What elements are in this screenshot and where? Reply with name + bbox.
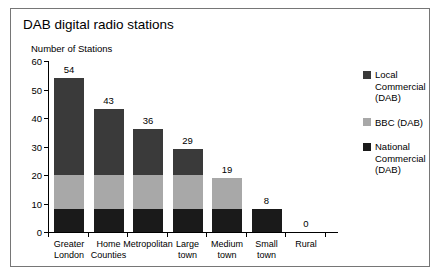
y-tick-label: 30 xyxy=(31,141,42,152)
plot-area: 0102030405060 544336291980 GreaterLondon… xyxy=(48,61,338,233)
bar-small-town[interactable]: 8 xyxy=(252,209,282,232)
category-label-rural: Rural xyxy=(278,239,334,250)
y-tick-label: 50 xyxy=(31,84,42,95)
x-tick-mark xyxy=(127,233,128,237)
y-tick-label: 10 xyxy=(31,198,42,209)
category-label-line: Rural xyxy=(278,239,334,250)
legend-label-line: Local xyxy=(375,69,429,81)
y-axis-label: Number of Stations xyxy=(31,43,112,54)
x-tick-mark xyxy=(246,233,247,237)
bar-segment-local xyxy=(133,129,163,175)
bar-home-counties[interactable]: 43 xyxy=(94,109,124,232)
category-label-line: Counties xyxy=(81,250,137,261)
bar-segment-national xyxy=(252,209,282,232)
x-tick-mark xyxy=(285,233,286,237)
chart-figure: DAB digital radio stations Number of Sta… xyxy=(10,8,430,267)
y-tick-mark xyxy=(44,175,48,176)
y-tick-mark xyxy=(44,204,48,205)
category-label-line: town xyxy=(239,250,295,261)
bar-segment-bbc xyxy=(133,175,163,209)
bar-large-town[interactable]: 29 xyxy=(173,149,203,232)
legend-label-line: (DAB) xyxy=(375,164,429,176)
bar-total-label: 0 xyxy=(303,218,308,229)
legend-item-national[interactable]: NationalCommercial(DAB) xyxy=(363,141,429,176)
legend-label-line: National xyxy=(375,141,429,153)
bar-metropolitan[interactable]: 36 xyxy=(133,129,163,232)
legend-swatch-icon xyxy=(363,118,371,126)
bar-segment-bbc xyxy=(212,178,242,209)
bar-total-label: 29 xyxy=(182,135,193,146)
bar-greater-london[interactable]: 54 xyxy=(54,78,84,232)
bar-segment-local xyxy=(94,109,124,175)
chart-legend: LocalCommercial(DAB)BBC (DAB)NationalCom… xyxy=(363,69,429,189)
y-tick-label: 60 xyxy=(31,56,42,67)
x-tick-mark xyxy=(206,233,207,237)
bar-segment-local xyxy=(54,78,84,175)
y-tick-mark xyxy=(44,90,48,91)
bar-total-label: 19 xyxy=(222,164,233,175)
y-tick-mark xyxy=(44,147,48,148)
bar-segment-national xyxy=(54,209,84,232)
legend-label-line: BBC (DAB) xyxy=(375,117,429,129)
y-tick-mark xyxy=(44,118,48,119)
legend-swatch-icon xyxy=(363,143,371,151)
legend-item-local[interactable]: LocalCommercial(DAB) xyxy=(363,69,429,104)
bar-total-label: 8 xyxy=(264,195,269,206)
bar-total-label: 43 xyxy=(103,95,114,106)
legend-label-line: Commercial xyxy=(375,81,429,93)
y-axis-line xyxy=(48,61,49,233)
bar-medium-town[interactable]: 19 xyxy=(212,178,242,232)
bar-segment-bbc xyxy=(94,175,124,209)
legend-item-bbc-dab[interactable]: BBC (DAB) xyxy=(363,117,429,129)
x-axis-line xyxy=(48,232,338,233)
y-tick-label: 0 xyxy=(37,227,42,238)
bar-segment-local xyxy=(173,149,203,175)
bar-segment-national xyxy=(94,209,124,232)
x-tick-mark xyxy=(167,233,168,237)
x-tick-mark xyxy=(325,233,326,237)
y-tick-label: 40 xyxy=(31,113,42,124)
bar-total-label: 54 xyxy=(64,64,75,75)
bar-segment-national xyxy=(133,209,163,232)
legend-label-line: Commercial xyxy=(375,153,429,165)
x-tick-mark xyxy=(88,233,89,237)
legend-swatch-icon xyxy=(363,71,371,79)
bar-segment-national xyxy=(212,209,242,232)
bar-segment-bbc xyxy=(173,175,203,209)
x-tick-mark xyxy=(48,233,49,237)
chart-title: DAB digital radio stations xyxy=(23,17,174,32)
y-tick-label: 20 xyxy=(31,170,42,181)
y-tick-mark xyxy=(44,61,48,62)
bar-segment-national xyxy=(173,209,203,232)
bar-total-label: 36 xyxy=(143,115,154,126)
bar-segment-bbc xyxy=(54,175,84,209)
legend-label-line: (DAB) xyxy=(375,92,429,104)
